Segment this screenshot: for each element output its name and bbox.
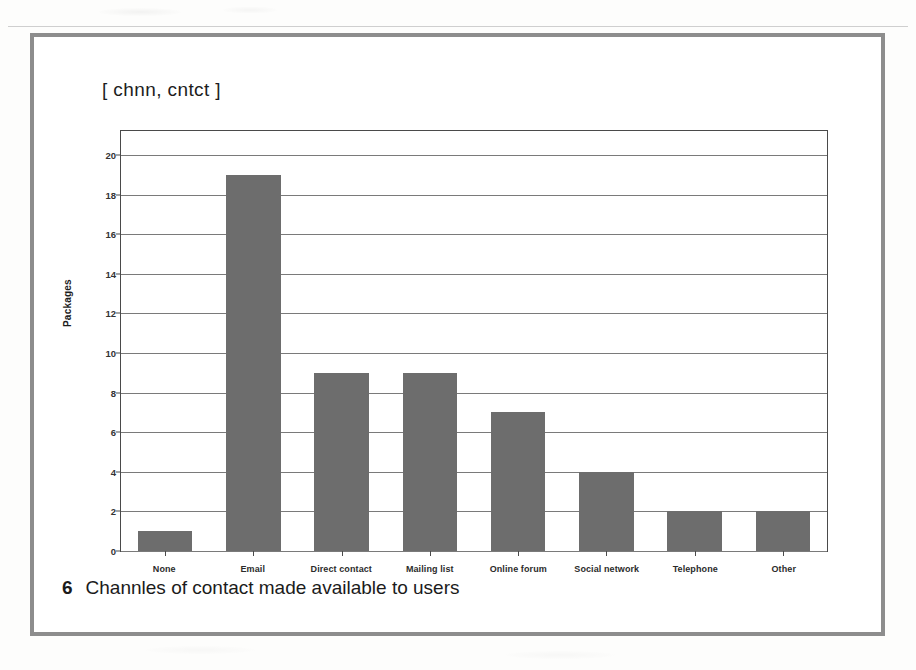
- x-axis-label: None: [120, 564, 209, 574]
- bar: [403, 373, 458, 551]
- gridline: 0: [121, 551, 827, 552]
- bar-slot: [298, 155, 386, 551]
- x-tick-mark: [342, 551, 343, 556]
- caption-text: Channles of contact made available to us…: [86, 577, 460, 598]
- y-tick-label: 18: [105, 189, 116, 200]
- bar-slot: [651, 155, 739, 551]
- x-axis-label: Mailing list: [386, 564, 475, 574]
- y-tick-label: 10: [105, 348, 116, 359]
- plot-inner: 02468101214161820: [121, 155, 827, 551]
- y-tick-label: 14: [105, 268, 116, 279]
- x-axis-label: Other: [740, 564, 829, 574]
- x-tick-mark: [253, 551, 254, 556]
- x-tick-mark: [430, 551, 431, 556]
- y-tick-label: 6: [111, 427, 116, 438]
- x-tick-mark: [695, 551, 696, 556]
- bar: [667, 511, 722, 551]
- bar-chart: Packages 02468101214161820 NoneEmailDire…: [56, 122, 856, 562]
- y-tick-label: 8: [111, 387, 116, 398]
- bar-slot: [386, 155, 474, 551]
- figure-frame: [ chnn, cntct ] Packages 024681012141618…: [30, 33, 885, 636]
- x-tick-mark: [165, 551, 166, 556]
- figure-caption: 6Channles of contact made available to u…: [62, 577, 459, 599]
- x-axis-label: Direct contact: [297, 564, 386, 574]
- bar-slot: [209, 155, 297, 551]
- x-axis-labels: NoneEmailDirect contactMailing listOnlin…: [120, 564, 828, 574]
- x-tick-mark: [606, 551, 607, 556]
- bar: [756, 511, 811, 551]
- bars-group: [121, 155, 827, 551]
- bar-slot: [121, 155, 209, 551]
- y-tick-label: 12: [105, 308, 116, 319]
- y-tick-label: 0: [111, 546, 116, 557]
- y-tick-label: 2: [111, 506, 116, 517]
- x-axis-label: Email: [209, 564, 298, 574]
- y-tick-label: 20: [105, 150, 116, 161]
- x-tick-mark: [783, 551, 784, 556]
- bar-slot: [562, 155, 650, 551]
- bar-slot: [474, 155, 562, 551]
- plot-wrapper: 02468101214161820: [120, 130, 828, 560]
- x-axis-label: Telephone: [651, 564, 740, 574]
- bar: [138, 531, 193, 551]
- bar: [579, 472, 634, 551]
- x-axis-label: Online forum: [474, 564, 563, 574]
- x-axis-label: Social network: [563, 564, 652, 574]
- page-top-rule: [8, 26, 908, 27]
- plot-area: 02468101214161820: [120, 130, 828, 552]
- caption-number: 6: [62, 577, 73, 598]
- chart-title: [ chnn, cntct ]: [102, 79, 221, 101]
- y-axis-title: Packages: [62, 313, 73, 327]
- y-tick-label: 16: [105, 229, 116, 240]
- bar: [314, 373, 369, 551]
- y-tick-label: 4: [111, 466, 116, 477]
- x-tick-mark: [518, 551, 519, 556]
- bar-slot: [739, 155, 827, 551]
- bar: [226, 175, 281, 551]
- bar: [491, 412, 546, 551]
